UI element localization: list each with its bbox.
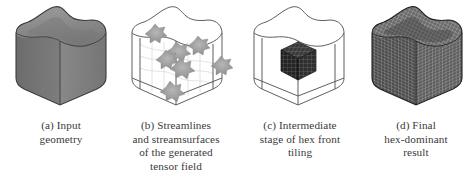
final-mesh-illustration	[358, 0, 475, 120]
panel-intermediate-hex-front-tiling	[240, 0, 358, 120]
caption-line: stage of hex front	[238, 133, 362, 147]
caption-line: result	[358, 146, 474, 160]
hex-front-cube	[281, 42, 316, 80]
caption-final-hex-dominant-result: (d) Final hex-dominant result	[358, 119, 474, 160]
caption-line: of the generated	[112, 146, 240, 160]
caption-streamlines-streamsurfaces: (b) Streamlines and streamsurfaces of th…	[112, 119, 240, 173]
panel-input-geometry	[2, 0, 120, 120]
figure-hex-dominant-meshing-pipeline: (a) Input geometry (b) Streamlines and s…	[0, 0, 475, 184]
hex-front-tiling-illustration	[240, 0, 358, 120]
caption-line: (c) Intermediate	[238, 119, 362, 133]
input-geometry-illustration	[2, 0, 120, 120]
streamsurface-group	[145, 24, 233, 102]
streamsurface-patch	[188, 36, 210, 55]
caption-line: tensor field	[112, 160, 240, 174]
streamsurface-patch	[145, 24, 167, 43]
panel-streamlines-streamsurfaces	[118, 0, 236, 120]
caption-line: and streamsurfaces	[112, 133, 240, 147]
caption-intermediate-hex-front-tiling: (c) Intermediate stage of hex front tili…	[238, 119, 362, 160]
streamsurface-patch	[211, 56, 233, 75]
caption-row: (a) Input geometry (b) Streamlines and s…	[0, 119, 475, 184]
caption-input-geometry: (a) Input geometry	[6, 119, 116, 146]
caption-line: (d) Final	[358, 119, 474, 133]
streamlines-illustration	[118, 0, 236, 120]
caption-line: (b) Streamlines	[112, 119, 240, 133]
caption-line: (a) Input	[6, 119, 116, 133]
panel-final-hex-dominant-result	[358, 0, 475, 120]
caption-line: geometry	[6, 133, 116, 147]
caption-line: hex-dominant	[358, 133, 474, 147]
panel-row	[0, 0, 475, 120]
caption-line: tiling	[238, 146, 362, 160]
